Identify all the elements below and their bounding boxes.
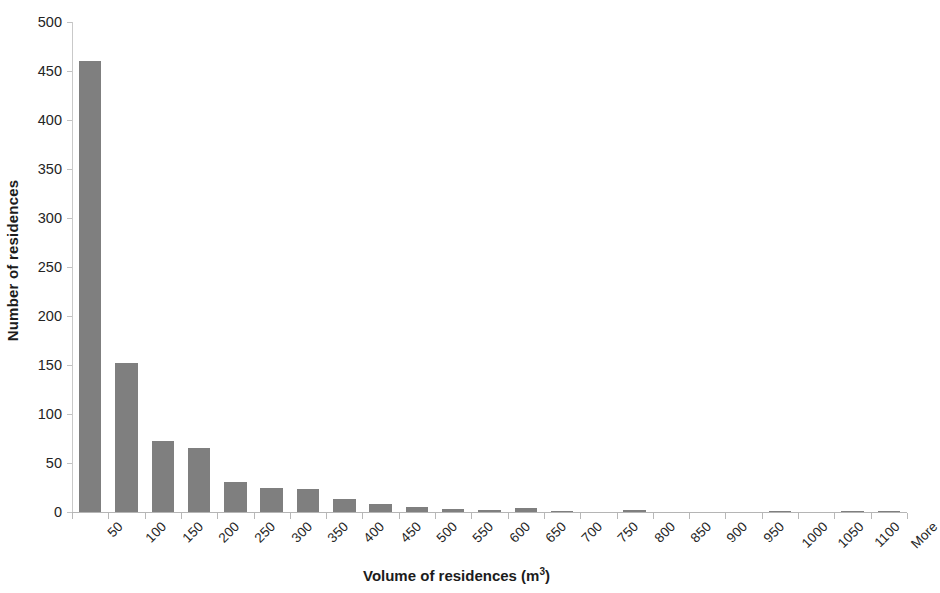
y-axis-tick-label: 450 [38,63,62,79]
bar[interactable] [297,489,320,512]
bar[interactable] [878,511,901,513]
bars-layer [72,22,907,512]
y-axis-tick-label: 150 [38,357,62,373]
y-axis-title-label: Number of residences [5,179,22,341]
y-axis-tick-mark [67,218,72,219]
x-axis-tick-label: 600 [506,519,533,546]
y-axis-tick-label: 100 [38,406,62,422]
x-axis-tick-label: 200 [216,519,243,546]
x-axis-title: Volume of residences (m3) [0,566,913,584]
bar[interactable] [79,61,102,512]
y-axis-tick-mark [67,120,72,121]
bar[interactable] [442,509,465,512]
x-axis-tick-label: 500 [433,519,460,546]
x-axis-tick-label: 1050 [835,519,867,551]
x-axis-tick-label: 950 [760,519,787,546]
bar[interactable] [260,488,283,512]
x-axis-tick-label: 350 [325,519,352,546]
y-axis-tick-mark [67,169,72,170]
bar[interactable] [188,448,211,512]
bar[interactable] [478,510,501,512]
bar[interactable] [406,507,429,512]
y-axis-tick-labels: 050100150200250300350400450500 [26,0,68,520]
y-axis-tick-label: 250 [38,259,62,275]
x-axis-tick-label: 750 [615,519,642,546]
x-axis-tick-label: 900 [724,519,751,546]
x-axis-tick-label: 550 [470,519,497,546]
x-axis-tick-label: 1000 [799,519,831,551]
bar[interactable] [841,511,864,513]
x-axis-tick-label: 300 [288,519,315,546]
x-axis-tick-label: 650 [542,519,569,546]
bar[interactable] [623,510,646,512]
bar[interactable] [515,508,538,512]
y-axis-tick-label: 300 [38,210,62,226]
y-axis-tick-mark [67,267,72,268]
y-axis-tick-label: 0 [54,504,62,520]
x-axis-tick-label: 450 [397,519,424,546]
x-axis-tick-label: 50 [105,519,126,540]
y-axis-tick-mark [67,71,72,72]
y-axis-tick-mark [67,22,72,23]
x-axis-tick-label: 150 [179,519,206,546]
x-axis-tick-label: 400 [361,519,388,546]
y-axis-tick-mark [67,316,72,317]
y-axis-tick-label: 350 [38,161,62,177]
bar[interactable] [769,511,792,513]
x-axis-tick-label: 800 [651,519,678,546]
x-axis-tick-label: 100 [143,519,170,546]
x-axis-title-base: Volume of residences (m [363,567,539,584]
bar[interactable] [152,441,175,512]
y-axis-tick-mark [67,463,72,464]
x-axis-title-tail: ) [545,567,550,584]
y-axis-tick-label: 200 [38,308,62,324]
x-axis-tick-label: 850 [688,519,715,546]
x-axis-tick-label: 250 [252,519,279,546]
y-axis-tick-mark [67,414,72,415]
y-axis-tick-label: 500 [38,14,62,30]
x-axis-tick-label: More [908,519,940,551]
bar[interactable] [333,499,356,512]
x-axis-tick-labels: 5010015020025030035040045050055060065070… [72,513,907,565]
bar[interactable] [115,363,138,512]
y-axis-tick-label: 400 [38,112,62,128]
plot-area [72,22,907,512]
y-axis-tick-mark [67,365,72,366]
bar[interactable] [224,482,247,512]
x-axis-tick-label: 700 [579,519,606,546]
bar[interactable] [551,511,574,513]
bar[interactable] [369,504,392,512]
x-axis-tick-label: 1100 [871,519,902,550]
x-axis-tick-mark [907,513,908,519]
y-axis-tick-label: 50 [46,455,62,471]
y-axis-title: Number of residences [0,0,26,520]
